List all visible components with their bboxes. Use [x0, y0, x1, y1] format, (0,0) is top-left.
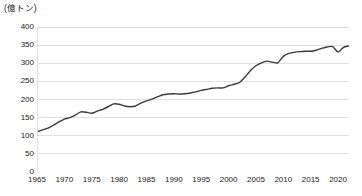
x-axis-tick-label: 2000	[220, 175, 238, 184]
y-axis-tick-label: 150	[6, 114, 34, 122]
x-axis-tick-labels: 1965197019751980198519901995200020052010…	[0, 175, 362, 189]
x-axis-tick-label: 1965	[28, 175, 46, 184]
x-axis-tick-label: 1970	[55, 175, 73, 184]
plot-area	[37, 27, 349, 172]
x-axis-tick-label: 1975	[83, 175, 101, 184]
x-axis-tick-label: 2010	[274, 175, 292, 184]
x-axis-tick-label: 2005	[247, 175, 265, 184]
y-axis-tick-label: 50	[6, 150, 34, 158]
y-axis-tick-label: 400	[6, 23, 34, 31]
data-line-series	[37, 46, 349, 132]
x-axis-tick-label: 1985	[138, 175, 156, 184]
x-axis-tick-label: 1990	[165, 175, 183, 184]
gridlines	[37, 27, 349, 172]
y-axis-tick-labels: 050100150200250300350400	[3, 27, 34, 172]
y-axis-tick-label: 300	[6, 59, 34, 67]
x-axis-tick-label: 2020	[329, 175, 347, 184]
x-axis-tick-label: 2015	[302, 175, 320, 184]
y-axis-unit-label: (億トン)	[4, 3, 37, 14]
line-chart: (億トン) 050100150200250300350400 196519701…	[0, 0, 362, 196]
x-axis-tick-label: 1980	[110, 175, 128, 184]
y-axis-tick-label: 250	[6, 77, 34, 85]
y-axis-tick-label: 100	[6, 132, 34, 140]
x-axis-tick-label: 1995	[192, 175, 210, 184]
chart-canvas	[37, 27, 349, 172]
y-axis-tick-label: 200	[6, 96, 34, 104]
y-axis-tick-label: 350	[6, 41, 34, 49]
